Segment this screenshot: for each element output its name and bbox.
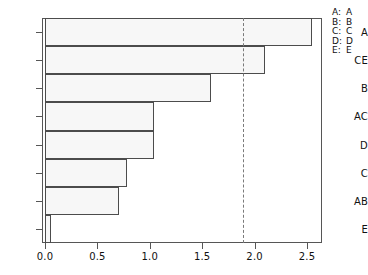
- legend: A:AB:BC:CD:DE:E: [332, 8, 353, 56]
- y-tick-label-ac: AC: [334, 111, 368, 122]
- bar-d: [45, 131, 154, 159]
- x-tick-label-0.0: 0.0: [37, 251, 54, 262]
- bar-e: [45, 215, 51, 243]
- y-tick-label-b: B: [334, 83, 368, 94]
- y-tick-ab: [36, 201, 42, 202]
- legend-item-value: E: [346, 46, 352, 56]
- x-tick-2.5: [307, 243, 308, 249]
- y-tick-c: [36, 173, 42, 174]
- x-tick-label-2.0: 2.0: [246, 251, 263, 262]
- x-tick-label-1.0: 1.0: [142, 251, 159, 262]
- pareto-chart: ACEBACDCABE 0.00.51.01.52.02.5 A:AB:BC:C…: [0, 0, 368, 275]
- x-tick-1.5: [202, 243, 203, 249]
- x-tick-label-1.5: 1.5: [194, 251, 211, 262]
- bar-ab: [45, 187, 119, 215]
- y-tick-a: [36, 32, 42, 33]
- y-tick-label-ce: CE: [334, 55, 368, 66]
- legend-item-key: E:: [332, 46, 346, 56]
- x-tick-label-0.5: 0.5: [89, 251, 106, 262]
- y-tick-label-ab: AB: [334, 195, 368, 206]
- y-tick-label-d: D: [334, 139, 368, 150]
- x-tick-label-2.5: 2.5: [299, 251, 316, 262]
- y-tick-label-c: C: [334, 167, 368, 178]
- x-tick-2.0: [255, 243, 256, 249]
- y-tick-label-e: E: [334, 223, 368, 234]
- y-tick-b: [36, 88, 42, 89]
- y-tick-ac: [36, 116, 42, 117]
- x-tick-0.0: [45, 243, 46, 249]
- bar-ce: [45, 46, 265, 74]
- reference-line: [243, 18, 244, 243]
- bar-c: [45, 159, 127, 187]
- y-tick-ce: [36, 60, 42, 61]
- bars-layer: [42, 18, 322, 243]
- x-tick-0.5: [97, 243, 98, 249]
- y-tick-d: [36, 145, 42, 146]
- bar-ac: [45, 102, 154, 130]
- bar-b: [45, 74, 211, 102]
- y-tick-e: [36, 229, 42, 230]
- legend-item: E:E: [332, 46, 353, 56]
- bar-a: [45, 18, 312, 46]
- x-tick-1.0: [150, 243, 151, 249]
